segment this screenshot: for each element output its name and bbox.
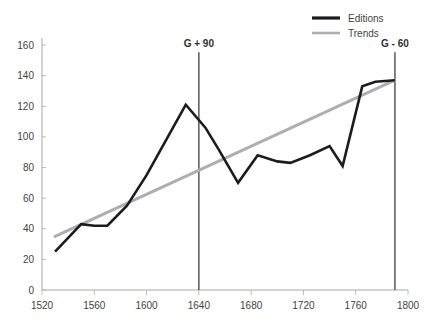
line-chart: 020406080100120140160 152015601600164016… [0,0,430,326]
x-tick-label: 1760 [345,300,368,311]
y-tick-label: 140 [17,70,34,81]
chart-legend: EditionsTrends [312,13,384,39]
x-tick-label: 1600 [135,300,158,311]
y-tick-label: 60 [23,193,35,204]
annotation-labels: G + 90G - 60 [184,38,410,49]
y-axis-tick-labels: 020406080100120140160 [17,40,34,296]
chart-container: 020406080100120140160 152015601600164016… [0,0,430,326]
y-axis-tick-marks [42,45,46,290]
annotation-label: G - 60 [381,38,409,49]
y-tick-label: 0 [28,285,34,296]
x-axis-tick-labels: 15201560160016401680172017601800 [31,300,420,311]
annotation-vertical-lines [199,52,395,290]
y-tick-label: 120 [17,101,34,112]
x-tick-label: 1800 [397,300,420,311]
x-tick-label: 1520 [31,300,54,311]
x-tick-label: 1560 [83,300,106,311]
x-tick-label: 1680 [240,300,263,311]
x-axis-tick-marks [42,290,408,295]
x-tick-label: 1640 [188,300,211,311]
x-tick-label: 1720 [292,300,315,311]
y-tick-label: 20 [23,254,35,265]
legend-label: Editions [348,13,384,24]
series-line-editions [55,80,395,252]
y-tick-label: 160 [17,40,34,51]
y-tick-label: 80 [23,162,35,173]
annotation-label: G + 90 [184,38,215,49]
y-tick-label: 40 [23,223,35,234]
y-tick-label: 100 [17,131,34,142]
legend-label: Trends [348,28,379,39]
